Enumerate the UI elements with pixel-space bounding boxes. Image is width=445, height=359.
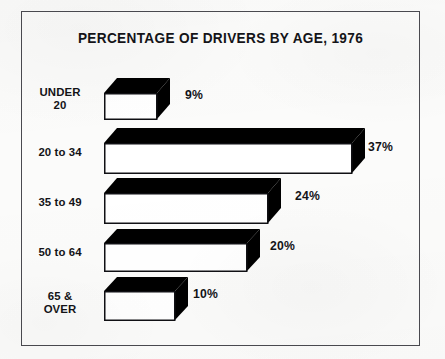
chart-image: PERCENTAGE OF DRIVERS BY AGE, 1976 UNDER… [0, 0, 445, 359]
category-label: 20 to 34 [24, 146, 96, 159]
bar-3d-shape [104, 277, 204, 321]
value-label: 24% [295, 189, 320, 203]
category-label: 35 to 49 [24, 196, 96, 209]
category-label: 50 to 64 [24, 246, 96, 259]
value-label: 9% [185, 88, 203, 102]
value-label: 37% [368, 140, 393, 154]
plot-area: UNDER 20 9% 20 to 34 37% [0, 0, 445, 359]
category-label: UNDER 20 [24, 86, 96, 112]
value-label: 10% [193, 287, 218, 301]
bar-3d-shape [104, 78, 184, 120]
category-label: 65 & OVER [24, 290, 96, 316]
bar-3d-shape [104, 229, 276, 272]
bar-3d-shape [104, 128, 379, 174]
bar-3d-shape [104, 178, 296, 224]
value-label: 20% [270, 239, 295, 253]
